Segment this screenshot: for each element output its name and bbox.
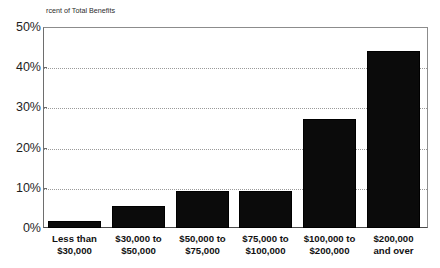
x-axis-labels: Less than $30,000 $30,000 to $50,000 $50… bbox=[43, 233, 428, 265]
y-tick-label-40: 40% bbox=[1, 61, 41, 74]
bar-series bbox=[43, 27, 428, 228]
bar-50000-to-75000 bbox=[176, 191, 229, 228]
y-tick-label-20: 20% bbox=[1, 142, 41, 155]
y-tick-label-30: 30% bbox=[1, 101, 41, 114]
y-axis-ticks: 50% 40% 30% 20% 10% 0% bbox=[0, 0, 41, 268]
y-tick-label-0: 0% bbox=[1, 222, 41, 235]
bar-less-than-30000 bbox=[48, 221, 101, 228]
y-tick-label-10: 10% bbox=[1, 182, 41, 195]
clipped-title-remnant bbox=[100, 0, 350, 4]
bar-30000-to-50000 bbox=[112, 206, 165, 228]
bar-chart: rcent of Total Benefits 50% 40% 30% 20% … bbox=[0, 0, 440, 268]
y-tick-label-50: 50% bbox=[1, 21, 41, 34]
y-axis-label: rcent of Total Benefits bbox=[46, 7, 115, 15]
bar-100000-to-200000 bbox=[303, 119, 356, 228]
bar-75000-to-100000 bbox=[239, 191, 292, 228]
x-label-200000-and-over: $200,000 and over bbox=[356, 233, 431, 256]
bar-200000-and-over bbox=[367, 51, 420, 228]
